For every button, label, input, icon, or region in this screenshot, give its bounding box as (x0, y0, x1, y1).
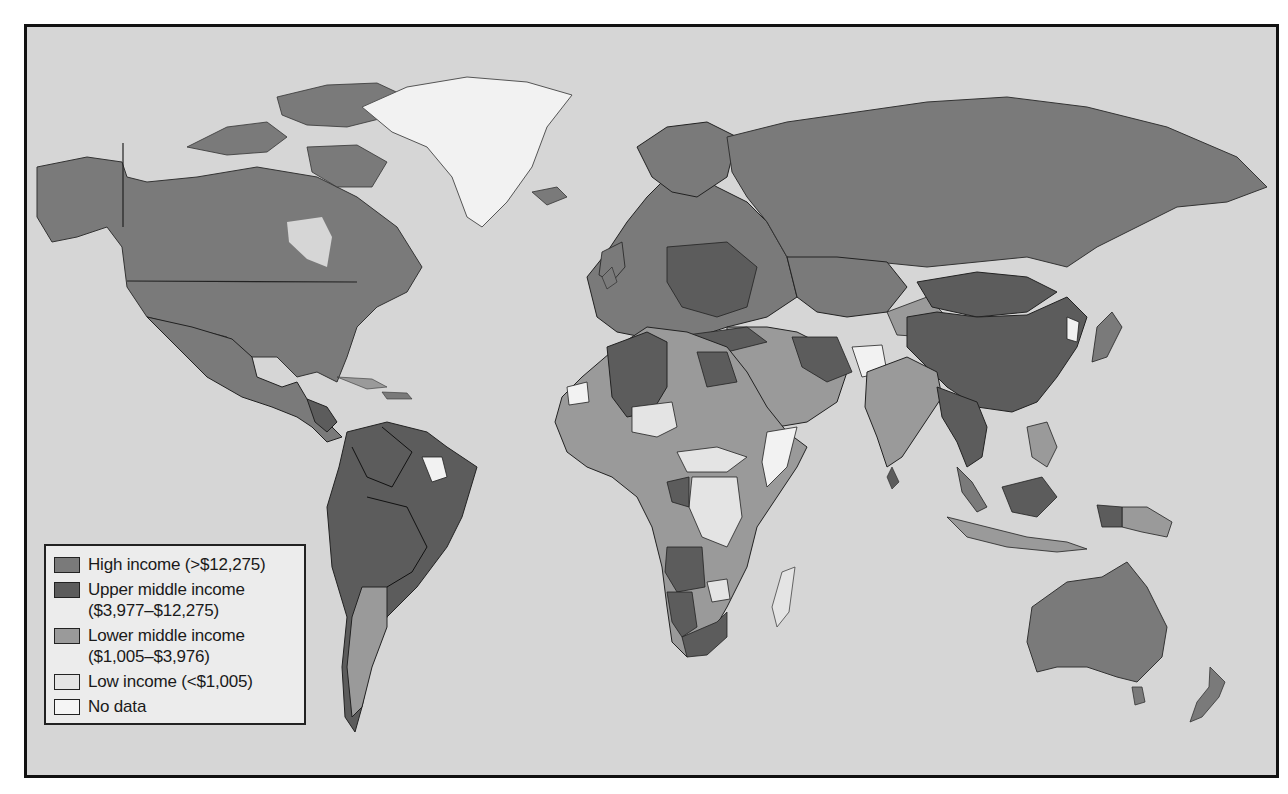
map-frame: High income (>$12,275) Upper middle inco… (24, 24, 1279, 778)
legend-label: Upper middle income (88, 579, 245, 600)
legend-range: ($1,005–$3,976) (88, 646, 245, 667)
legend-item-upper-middle-income: Upper middle income ($3,977–$12,275) (46, 577, 304, 623)
legend-swatch-low-income (54, 674, 80, 690)
legend-swatch-high-income (54, 557, 80, 573)
legend-label: Lower middle income (88, 625, 245, 646)
legend-item-high-income: High income (>$12,275) (46, 552, 304, 577)
legend-label: No data (88, 696, 146, 717)
legend-label: Low income (<$1,005) (88, 671, 253, 692)
legend-item-lower-middle-income: Lower middle income ($1,005–$3,976) (46, 623, 304, 669)
map-legend: High income (>$12,275) Upper middle inco… (44, 544, 306, 725)
legend-label: High income (>$12,275) (88, 554, 266, 575)
legend-range: ($3,977–$12,275) (88, 600, 245, 621)
legend-item-low-income: Low income (<$1,005) (46, 669, 304, 694)
legend-swatch-lower-middle-income (54, 628, 80, 644)
legend-item-no-data: No data (46, 694, 304, 719)
legend-swatch-upper-middle-income (54, 582, 80, 598)
legend-swatch-no-data (54, 699, 80, 715)
